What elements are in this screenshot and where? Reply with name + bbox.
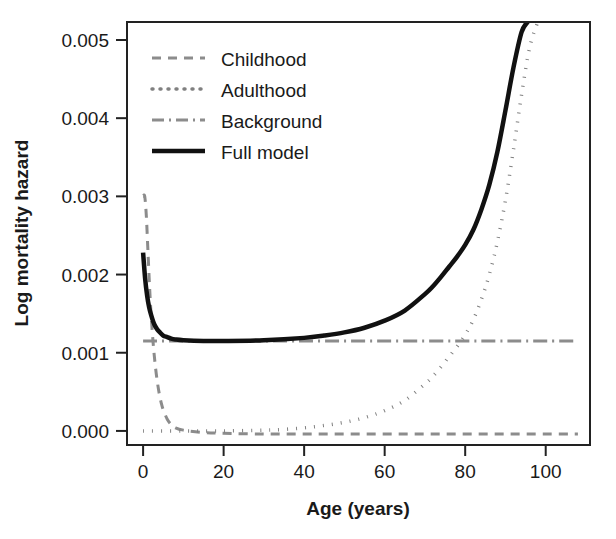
x-axis-title: Age (years)	[306, 498, 410, 519]
chart-canvas: 020406080100 0.0000.0010.0020.0030.0040.…	[0, 0, 616, 539]
chart-figure: 020406080100 0.0000.0010.0020.0030.0040.…	[0, 0, 616, 539]
y-tick-label-0.001: 0.001	[61, 343, 109, 364]
y-tick-label-0.005: 0.005	[61, 30, 109, 51]
x-tick-label-100: 100	[530, 461, 562, 482]
legend-label-full-model: Full model	[221, 142, 309, 163]
y-tick-label-0.003: 0.003	[61, 186, 109, 207]
x-tick-label-20: 20	[213, 461, 234, 482]
y-tick-label-0.004: 0.004	[61, 108, 109, 129]
x-tick-label-60: 60	[374, 461, 395, 482]
y-tick-label-0.000: 0.000	[61, 421, 109, 442]
y-axis-title: Log mortality hazard	[11, 140, 32, 327]
x-tick-label-80: 80	[455, 461, 476, 482]
legend-label-background: Background	[221, 111, 322, 132]
plot-frame	[127, 22, 590, 445]
legend-label-childhood: Childhood	[221, 49, 307, 70]
y-tick-label-0.002: 0.002	[61, 265, 109, 286]
x-tick-label-0: 0	[138, 461, 149, 482]
legend-label-adulthood: Adulthood	[221, 80, 307, 101]
x-tick-label-40: 40	[294, 461, 315, 482]
